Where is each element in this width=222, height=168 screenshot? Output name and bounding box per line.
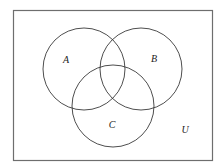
set-b-circle [100,28,182,110]
set-c-label: C [109,119,116,130]
set-a-label: A [62,54,70,65]
set-c-circle [72,65,154,147]
universe-label: U [181,124,189,135]
universe-rectangle [14,11,213,161]
set-b-label: B [151,53,157,64]
set-a-circle [43,28,125,110]
venn-diagram: A B C U [0,0,222,168]
